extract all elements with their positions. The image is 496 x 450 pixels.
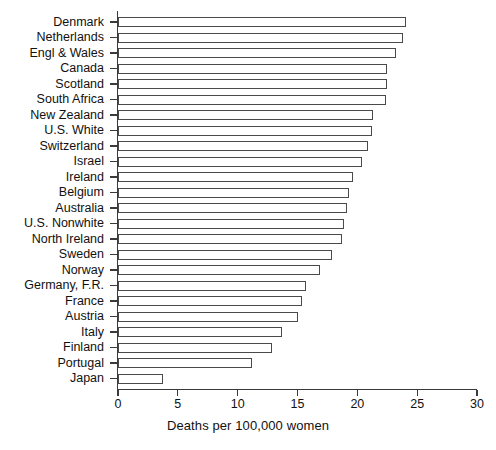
x-axis-tick bbox=[297, 390, 298, 396]
bar bbox=[118, 343, 272, 353]
bar bbox=[118, 126, 372, 136]
y-axis-tick bbox=[110, 331, 117, 332]
y-axis-tick bbox=[110, 223, 117, 224]
bar bbox=[118, 95, 386, 105]
category-label: South Africa bbox=[0, 93, 104, 105]
category-label: Norway bbox=[0, 264, 104, 276]
y-axis-tick bbox=[110, 362, 117, 363]
category-label: North Ireland bbox=[0, 233, 104, 245]
bar-chart: DenmarkNetherlandsEngl & WalesCanadaScot… bbox=[0, 0, 496, 450]
x-axis-tick-label: 30 bbox=[457, 397, 496, 411]
y-axis-tick bbox=[110, 176, 117, 177]
bar bbox=[118, 48, 396, 58]
bar bbox=[118, 141, 368, 151]
category-label: Belgium bbox=[0, 186, 104, 198]
y-axis-tick bbox=[110, 161, 117, 162]
bar bbox=[118, 110, 373, 120]
x-axis-title: Deaths per 100,000 women bbox=[0, 418, 496, 433]
x-axis-tick bbox=[177, 390, 178, 396]
x-axis-tick-label: 15 bbox=[278, 397, 318, 411]
category-label: Denmark bbox=[0, 16, 104, 28]
x-axis-tick bbox=[357, 390, 358, 396]
y-axis-tick bbox=[110, 378, 117, 379]
y-axis-tick bbox=[110, 300, 117, 301]
x-axis-tick-label: 5 bbox=[158, 397, 198, 411]
bar bbox=[118, 327, 282, 337]
bar bbox=[118, 219, 344, 229]
y-axis-tick bbox=[110, 285, 117, 286]
y-axis-tick bbox=[110, 238, 117, 239]
category-label: France bbox=[0, 295, 104, 307]
y-axis-tick bbox=[110, 99, 117, 100]
bar bbox=[118, 33, 403, 43]
y-axis-tick bbox=[110, 347, 117, 348]
category-label: Japan bbox=[0, 372, 104, 384]
y-axis-tick bbox=[110, 83, 117, 84]
bar bbox=[118, 17, 406, 27]
bar bbox=[118, 358, 252, 368]
plot-area: DenmarkNetherlandsEngl & WalesCanadaScot… bbox=[0, 0, 496, 450]
category-label: Israel bbox=[0, 155, 104, 167]
category-label: Italy bbox=[0, 326, 104, 338]
category-label: Austria bbox=[0, 310, 104, 322]
category-label: Switzerland bbox=[0, 140, 104, 152]
bar bbox=[118, 203, 347, 213]
bar bbox=[118, 265, 320, 275]
x-axis-tick bbox=[476, 390, 477, 396]
x-axis-tick-label: 25 bbox=[397, 397, 437, 411]
y-axis-tick bbox=[110, 145, 117, 146]
y-axis-tick bbox=[110, 37, 117, 38]
bar bbox=[118, 281, 306, 291]
bar bbox=[118, 296, 302, 306]
category-label: U.S. White bbox=[0, 124, 104, 136]
y-axis-tick bbox=[110, 68, 117, 69]
x-axis-tick-label: 0 bbox=[98, 397, 138, 411]
y-axis-tick bbox=[110, 21, 117, 22]
category-label: New Zealand bbox=[0, 109, 104, 121]
category-label: Ireland bbox=[0, 171, 104, 183]
bar bbox=[118, 157, 362, 167]
x-axis-tick bbox=[417, 390, 418, 396]
x-axis-tick bbox=[237, 390, 238, 396]
y-axis-tick bbox=[110, 114, 117, 115]
bar bbox=[118, 312, 298, 322]
y-axis-tick bbox=[110, 269, 117, 270]
y-axis-tick bbox=[110, 52, 117, 53]
bar bbox=[118, 79, 387, 89]
category-label: Finland bbox=[0, 341, 104, 353]
category-label: Portugal bbox=[0, 357, 104, 369]
category-label: Germany, F.R. bbox=[0, 279, 104, 291]
category-label: Scotland bbox=[0, 78, 104, 90]
category-label: Engl & Wales bbox=[0, 47, 104, 59]
bar bbox=[118, 234, 342, 244]
y-axis-tick bbox=[110, 254, 117, 255]
y-axis-tick bbox=[110, 130, 117, 131]
x-axis-tick bbox=[117, 390, 118, 396]
category-label: U.S. Nonwhite bbox=[0, 217, 104, 229]
y-axis-tick bbox=[110, 316, 117, 317]
y-axis-tick bbox=[110, 207, 117, 208]
clipped-caption bbox=[258, 442, 496, 450]
y-axis-tick bbox=[110, 192, 117, 193]
category-label: Australia bbox=[0, 202, 104, 214]
category-label: Sweden bbox=[0, 248, 104, 260]
bar bbox=[118, 374, 163, 384]
bar bbox=[118, 172, 353, 182]
category-label: Netherlands bbox=[0, 31, 104, 43]
bar bbox=[118, 250, 332, 260]
category-label: Canada bbox=[0, 62, 104, 74]
bar bbox=[118, 188, 349, 198]
x-axis-tick-label: 20 bbox=[337, 397, 377, 411]
bar bbox=[118, 64, 387, 74]
x-axis-tick-label: 10 bbox=[218, 397, 258, 411]
